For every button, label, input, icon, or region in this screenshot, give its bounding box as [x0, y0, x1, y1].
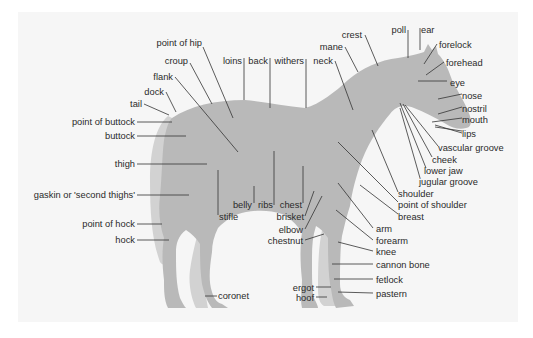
- label-forearm: forearm: [376, 236, 408, 246]
- leader-knee: [338, 242, 373, 251]
- label-loins: loins: [223, 56, 242, 66]
- leader-shoulder: [372, 130, 398, 192]
- label-nose: nose: [462, 91, 482, 101]
- leader-lower-jaw: [400, 103, 426, 168]
- label-belly: belly: [233, 200, 252, 210]
- label-croup: croup: [165, 56, 188, 66]
- label-point-of-buttock: point of buttock: [72, 117, 135, 127]
- leader-mane: [345, 47, 358, 72]
- label-cheek: cheek: [432, 155, 457, 165]
- label-vascular-groove: vascular groove: [438, 143, 504, 153]
- label-nostril: nostril: [462, 104, 487, 114]
- label-chestnut: chestnut: [268, 236, 304, 246]
- label-back: back: [248, 56, 268, 66]
- label-poll: poll: [392, 25, 406, 35]
- label-breast: breast: [398, 212, 424, 222]
- leader-croup: [190, 63, 212, 104]
- label-brisket: brisket: [277, 212, 305, 222]
- label-neck: neck: [313, 56, 333, 66]
- label-chest: chest: [280, 200, 303, 210]
- label-lower-jaw: lower jaw: [424, 166, 463, 176]
- label-fetlock: fetlock: [376, 275, 403, 285]
- label-ear: ear: [421, 25, 434, 35]
- label-eye: eye: [450, 78, 465, 88]
- label-mane: mane: [320, 42, 343, 52]
- label-withers: withers: [274, 56, 305, 66]
- label-lips: lips: [462, 129, 476, 139]
- label-arm: arm: [376, 224, 392, 234]
- horse-diagram: point of hip croup loins back withers ne…: [0, 0, 533, 338]
- label-gaskin: gaskin or 'second thighs': [34, 190, 135, 200]
- label-ribs: ribs: [258, 200, 273, 210]
- leader-dock: [166, 92, 176, 112]
- label-tail: tail: [130, 99, 142, 109]
- label-forelock: forelock: [439, 40, 472, 50]
- leader-tail: [144, 104, 169, 115]
- label-coronet: coronet: [218, 291, 249, 301]
- label-hock: hock: [115, 235, 135, 245]
- label-point-of-shoulder: point of shoulder: [398, 200, 467, 210]
- leader-crest: [365, 35, 378, 66]
- label-shoulder: shoulder: [398, 189, 434, 199]
- label-crest: crest: [342, 30, 363, 40]
- label-cannon-bone: cannon bone: [376, 260, 430, 270]
- label-jugular-groove: jugular groove: [418, 177, 478, 187]
- label-elbow: elbow: [279, 225, 304, 235]
- leader-breast: [360, 185, 398, 214]
- leader-jugular-groove: [400, 108, 420, 178]
- label-dock: dock: [144, 87, 164, 97]
- label-flank: flank: [153, 72, 173, 82]
- label-buttock: buttock: [105, 131, 135, 141]
- label-mouth: mouth: [462, 115, 488, 125]
- label-hoof: hoof: [296, 293, 315, 303]
- label-point-of-hock: point of hock: [82, 219, 135, 229]
- leader-pastern: [338, 292, 373, 293]
- label-thigh: thigh: [115, 159, 135, 169]
- label-stifle: stifle: [219, 212, 238, 222]
- label-ergot: ergot: [293, 283, 315, 293]
- label-knee: knee: [376, 247, 396, 257]
- label-pastern: pastern: [376, 289, 407, 299]
- label-forehead: forehead: [446, 58, 483, 68]
- label-point-of-hip: point of hip: [157, 38, 203, 48]
